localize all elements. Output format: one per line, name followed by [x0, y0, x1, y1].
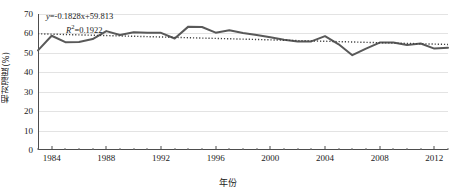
regression-equation: y=-0.1828x+59.813: [46, 10, 113, 22]
r-squared-body: =0.1922: [74, 25, 102, 35]
y-tick-label: 50: [24, 48, 33, 57]
y-tick-label: 60: [24, 29, 33, 38]
y-axis-title: 相对湿度(%): [2, 52, 14, 103]
x-tick-label: 1992: [152, 154, 170, 163]
x-tick-label: 1996: [207, 154, 225, 163]
y-tick-label: 10: [24, 126, 33, 135]
x-tick-label: 2012: [425, 154, 443, 163]
humidity-trend-chart: 相对湿度(%) 010203040506070 1984198819921996…: [0, 0, 456, 192]
y-tick-label: 30: [24, 87, 33, 96]
x-tick-label: 2000: [261, 154, 279, 163]
equation-body: =-0.1828x+59.813: [50, 11, 113, 21]
x-tick-label: 1984: [43, 154, 61, 163]
x-axis-title: 年份: [0, 176, 456, 189]
y-tick-label: 40: [24, 68, 33, 77]
y-tick-label: 20: [24, 107, 33, 116]
x-tick-label: 2008: [371, 154, 389, 163]
x-tick-label: 2004: [316, 154, 334, 163]
regression-annotation: y=-0.1828x+59.813 R2=0.1922: [46, 10, 113, 36]
y-tick-label: 70: [24, 10, 33, 19]
r-squared-value: R2=0.1922: [46, 22, 113, 36]
y-tick-label: 0: [29, 146, 34, 155]
x-tick-label: 1988: [97, 154, 115, 163]
